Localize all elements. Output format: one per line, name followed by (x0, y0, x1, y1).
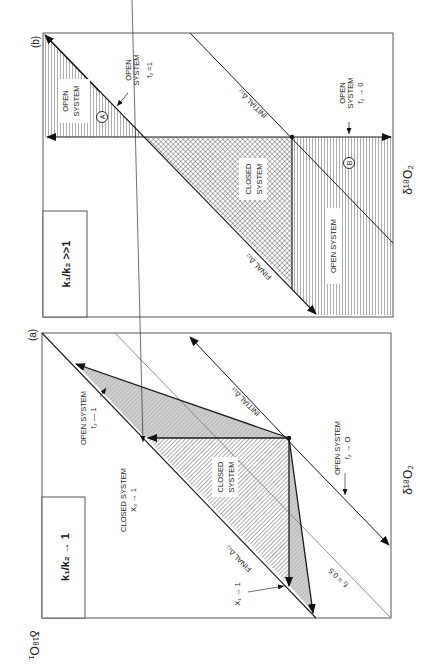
figure-canvas: k₁/k₂ >>1 (b) OPEN SYSTEM A OPEN SYSTEM … (0, 0, 438, 670)
closed-label-a-2: SYSTEM (227, 462, 236, 493)
annot-closed-x2-l1: CLOSED SYSTEM (119, 468, 128, 532)
panel-a-tag: (a) (27, 329, 38, 341)
annot-open-f2-1-l1: OPEN SYSTEM (79, 391, 88, 445)
ratio-label-a: k₁/k₂ → 1 (59, 533, 71, 581)
initial-point (290, 135, 294, 139)
closed-label-a-1: CLOSED (216, 461, 225, 492)
f2-half-label: f₂ = 0.5 (327, 566, 350, 589)
closed-label-b-1: CLOSED (244, 163, 253, 194)
region-a-label-1: OPEN (61, 90, 70, 111)
annot-x1: X₁ → 1 (233, 582, 242, 605)
annot-closed-x2-l2: X₂ → 1 (129, 488, 138, 512)
marker-a: A (99, 114, 106, 119)
initial-delta-arrow-down (300, 453, 389, 545)
panel-b-tag: (b) (30, 36, 41, 48)
initial-delta-label-a: INITIAL Δ₁₂ (229, 385, 262, 418)
annot-open-f2-0-l2: SYSTEM (346, 78, 355, 109)
x-axis-label-a: δ¹⁸O₂ (401, 465, 415, 495)
annot-open-f2-1-l3: f₂ =1 (145, 62, 154, 78)
panel-b: k₁/k₂ >>1 (b) OPEN SYSTEM A OPEN SYSTEM … (30, 33, 415, 317)
annot-open-f2-1-l2: f₂ — 1 (89, 408, 98, 429)
annot-open-f2-0-l3: f₂ → 0 (356, 83, 365, 104)
annot-open-f2-0-l1: OPEN SYSTEM (333, 421, 342, 475)
initial-point (287, 436, 291, 440)
closed-label-b-2: SYSTEM (255, 164, 264, 195)
marker-b: B (346, 160, 353, 165)
initial-delta-label-b: INITIAL Δ₁₂ (236, 87, 269, 120)
x-axis-label-b: δ¹⁸O₂ (401, 165, 415, 195)
annot-arrow (248, 586, 284, 592)
f2-half-line (115, 333, 390, 617)
ratio-label-b: k₁/k₂ >>1 (60, 241, 72, 288)
region-a-label-2: SYSTEM (72, 86, 81, 117)
y-axis-label-a: δ¹⁸O₁ (27, 630, 41, 659)
annot-arrow (117, 93, 128, 106)
region-b-label: OPEN SYSTEM (329, 219, 338, 273)
annot-open-f2-0-l2: f₂ → O (343, 437, 352, 460)
